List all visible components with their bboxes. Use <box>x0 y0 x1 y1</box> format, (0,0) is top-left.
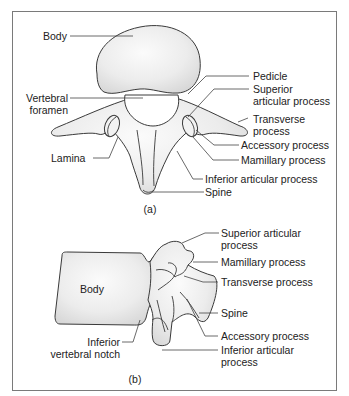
label-inferior-articular-b-1: Inferior articular <box>221 344 294 356</box>
caption-b: (b) <box>120 373 150 385</box>
label-inferior-notch-1: Inferior <box>40 336 120 348</box>
label-transverse-b: Transverse process <box>221 276 313 288</box>
label-lamina: Lamina <box>51 152 85 164</box>
lateral-posterior-elements-shape <box>148 241 217 345</box>
label-superior-articular-b-1: Superior articular <box>221 227 301 239</box>
label-inferior-notch-2: vertebral notch <box>30 348 120 360</box>
label-transverse-a-2: process <box>253 125 290 137</box>
panel-a-drawing <box>51 26 247 194</box>
label-vertebral-foramen-1: Vertebral <box>24 92 68 104</box>
label-mamillary-a: Mamillary process <box>241 154 326 166</box>
label-pedicle: Pedicle <box>253 70 287 82</box>
label-accessory-a: Accessory process <box>241 139 329 151</box>
label-body-b: Body <box>80 283 104 295</box>
caption-a: (a) <box>135 203 165 215</box>
label-transverse-a-1: Transverse <box>253 113 305 125</box>
label-spine-a: Spine <box>205 186 232 198</box>
label-superior-articular-b-2: process <box>221 239 258 251</box>
label-superior-articular-a-1: Superior <box>253 83 293 95</box>
label-superior-articular-a-2: articular process <box>253 95 330 107</box>
lateral-body-shape <box>55 252 156 325</box>
label-accessory-b: Accessory process <box>221 330 309 342</box>
label-spine-b: Spine <box>221 307 248 319</box>
label-inferior-articular-b-2: process <box>221 356 258 368</box>
label-body-a: Body <box>43 30 67 42</box>
label-inferior-articular-a: Inferior articular process <box>205 173 318 185</box>
label-mamillary-b: Mamillary process <box>221 256 306 268</box>
label-vertebral-foramen-2: foramen <box>24 104 68 116</box>
